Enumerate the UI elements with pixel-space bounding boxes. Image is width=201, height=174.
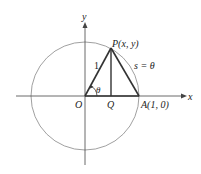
chord-PA [111,48,139,96]
point-Q-label: Q [107,99,115,110]
unit-circle-diagram: y x P(x, y) s = θ 1 θ O Q A(1, 0) [0,0,201,174]
angle-arrow-icon [90,85,94,89]
radius-label: 1 [94,60,99,71]
point-P-label: P(x, y) [111,38,139,50]
angle-label: θ [96,85,101,95]
arc-length-label: s = θ [134,60,155,71]
y-axis-arrow-icon [83,22,88,28]
origin-label: O [75,99,82,110]
x-axis-label: x [187,91,193,102]
x-axis-arrow-icon [181,94,187,99]
point-A-label: A(1, 0) [140,99,169,111]
y-axis-label: y [81,11,87,22]
